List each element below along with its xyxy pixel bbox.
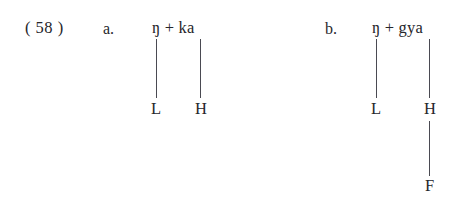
sub-label-b: b. bbox=[325, 21, 337, 37]
tone-b-low: L bbox=[371, 101, 381, 118]
example-item-b: b. ŋ + gya L H F bbox=[0, 0, 468, 199]
association-line-b-high-to-falling bbox=[429, 121, 430, 176]
association-line-b-gya-to-high bbox=[429, 39, 430, 98]
morpheme-string-b: ŋ + gya bbox=[372, 20, 423, 37]
tone-b-high: H bbox=[424, 101, 436, 118]
association-line-b-eng-to-low bbox=[376, 39, 377, 98]
tone-diagram-figure: ( 58 ) a. ŋ + ka L H b. ŋ + gya L H F bbox=[0, 0, 468, 199]
tone-b-floating: F bbox=[425, 178, 434, 195]
